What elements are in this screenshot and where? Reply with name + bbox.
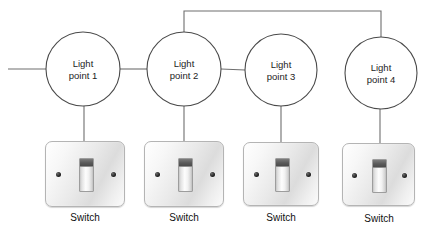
switch-3-screw-right-icon [306,172,311,177]
light-point-2-label: Lightpoint 2 [170,58,199,81]
switch-2-rocker-top-band [179,159,192,167]
light-point-3-label: Lightpoint 3 [267,59,296,82]
switch-4-plate[interactable] [342,143,415,206]
switch-2-plate[interactable] [144,141,224,207]
switch-4-screw-right-icon [402,173,407,178]
switch-captions-group: SwitchSwitchSwitchSwitch [70,212,393,224]
link-lamp2-lamp3 [221,69,245,70]
switch-1-rocker[interactable] [79,158,94,192]
switch-4-rocker-top-band [373,160,386,168]
switch-1-screw-left-icon [56,172,61,177]
switch-3-plate[interactable] [243,142,319,206]
switch-1-rocker-top-band [80,159,93,167]
switch-3-rocker[interactable] [275,158,290,192]
switch-2-caption: Switch [169,212,198,223]
switch-4-rocker[interactable] [372,159,387,193]
switch-1-plate[interactable] [45,141,125,207]
switch-1-caption: Switch [70,212,99,223]
light-point-1-label: Lightpoint 1 [69,58,98,81]
switch-1-screw-right-icon [111,172,116,177]
switch-3-rocker-top-band [276,159,289,167]
switch-2-screw-right-icon [210,172,215,177]
switch-2-screw-left-icon [155,172,160,177]
switch-2-rocker[interactable] [178,158,193,192]
light-point-4-label: Lightpoint 4 [367,62,396,85]
switch-4-screw-left-icon [352,173,357,178]
top-bus-lamp2-to-lamp4 [184,11,381,37]
wiring-diagram: Lightpoint 1Lightpoint 2Lightpoint 3Ligh… [0,0,424,232]
light-points-group: Lightpoint 1Lightpoint 2Lightpoint 3Ligh… [46,32,417,109]
switch-4-caption: Switch [364,213,393,224]
switch-3-screw-left-icon [254,172,259,177]
switch-3-caption: Switch [266,212,295,223]
